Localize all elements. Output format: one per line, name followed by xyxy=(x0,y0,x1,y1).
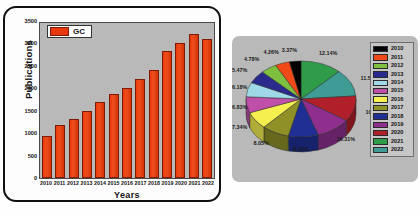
pie-legend-label-2019: 2019 xyxy=(391,122,403,128)
x-tick-2010: 2010 xyxy=(40,180,52,190)
pie-legend-label-2010: 2010 xyxy=(391,46,403,52)
y-tick-3500: 3500 xyxy=(11,19,37,25)
pie-label-2018: 8.79% xyxy=(293,146,308,152)
pie-legend-swatch-2011 xyxy=(373,54,388,60)
pie-legend-swatch-2017 xyxy=(373,105,388,111)
pie-legend-swatch-2020 xyxy=(373,130,388,136)
pie-label-2013: 5.47% xyxy=(232,67,247,73)
bar-series-gc xyxy=(40,23,214,178)
bar-2020 xyxy=(175,43,185,178)
bar-2013 xyxy=(82,111,92,178)
x-tick-2014: 2014 xyxy=(94,180,106,190)
bar-chart-inner: Publications 350030002500200015001000500… xyxy=(5,8,221,202)
bar-2015 xyxy=(109,94,119,178)
bar-2011 xyxy=(55,125,65,178)
bar-2010 xyxy=(42,136,52,178)
pie-label-2015: 6.83% xyxy=(232,104,247,110)
bar-2016 xyxy=(122,88,132,178)
pie-legend-label-2011: 2011 xyxy=(391,55,403,61)
y-tick-1000: 1000 xyxy=(11,131,37,137)
pie-chart-legend: 2010201120122013201420152016201720182019… xyxy=(370,42,414,157)
pie-legend-swatch-2016 xyxy=(373,96,388,102)
bar-chart-legend: GC xyxy=(47,25,92,38)
bar-2014 xyxy=(95,102,105,178)
x-tick-2018: 2018 xyxy=(148,180,160,190)
pie-legend-item-2010: 2010 xyxy=(373,45,411,53)
pie-legend-label-2013: 2013 xyxy=(391,72,403,78)
pie-legend-item-2022: 2022 xyxy=(373,146,411,154)
y-tick-2000: 2000 xyxy=(11,86,37,92)
pie-legend-item-2011: 2011 xyxy=(373,53,411,61)
y-tick-3000: 3000 xyxy=(11,41,37,47)
pie-legend-item-2015: 2015 xyxy=(373,87,411,95)
y-tick-500: 500 xyxy=(11,154,37,160)
bar-y-axis-ticks: 3500300025002000150010005000 xyxy=(9,8,37,202)
pie-label-2011: 4.26% xyxy=(264,49,279,55)
pie-legend-label-2021: 2021 xyxy=(391,139,403,145)
bar-2019 xyxy=(162,51,172,178)
pie-legend-item-2019: 2019 xyxy=(373,121,411,129)
x-tick-2016: 2016 xyxy=(121,180,133,190)
pie-chart-panel: 12.14%11.57%10.91%10.31%8.79%8.05%7.34%6… xyxy=(232,36,418,182)
pie-legend-item-2021: 2021 xyxy=(373,137,411,145)
pie-label-2021: 12.14% xyxy=(319,50,337,56)
x-tick-2020: 2020 xyxy=(175,180,187,190)
figure-root: Publications 350030002500200015001000500… xyxy=(0,0,420,216)
pie-label-2017: 8.05% xyxy=(253,140,268,146)
pie-label-2016: 7.34% xyxy=(232,124,247,130)
pie-label-2014: 6.18% xyxy=(232,84,247,90)
bar-2022 xyxy=(202,39,212,178)
x-tick-2012: 2012 xyxy=(67,180,79,190)
y-tick-2500: 2500 xyxy=(11,64,37,70)
pie-legend-label-2022: 2022 xyxy=(391,147,403,153)
pie-legend-swatch-2012 xyxy=(373,63,388,69)
pie-legend-label-2014: 2014 xyxy=(391,80,403,86)
bar-plot-area xyxy=(39,22,215,179)
bar-x-axis-label: Years xyxy=(39,190,215,200)
pie-legend-swatch-2015 xyxy=(373,88,388,94)
pie-chart-top-face xyxy=(245,60,357,138)
pie-label-2010: 3.37% xyxy=(282,47,297,53)
pie-legend-label-2017: 2017 xyxy=(391,105,403,111)
pie-legend-label-2020: 2020 xyxy=(391,130,403,136)
pie-label-2019: 10.31% xyxy=(337,136,355,142)
x-tick-2021: 2021 xyxy=(189,180,201,190)
y-tick-1500: 1500 xyxy=(11,109,37,115)
pie-legend-swatch-2019 xyxy=(373,122,388,128)
bar-2021 xyxy=(189,34,199,178)
bar-2017 xyxy=(135,79,145,178)
pie-legend-item-2012: 2012 xyxy=(373,62,411,70)
bar-chart-panel: Publications 350030002500200015001000500… xyxy=(3,6,221,202)
legend-swatch-gc xyxy=(50,27,69,36)
x-tick-2015: 2015 xyxy=(108,180,120,190)
pie-legend-item-2014: 2014 xyxy=(373,79,411,87)
bar-2012 xyxy=(69,119,79,178)
y-tick-0: 0 xyxy=(11,176,37,182)
x-tick-2011: 2011 xyxy=(54,180,66,190)
x-tick-2022: 2022 xyxy=(202,180,214,190)
pie-legend-item-2013: 2013 xyxy=(373,70,411,78)
pie-legend-item-2017: 2017 xyxy=(373,104,411,112)
pie-legend-item-2018: 2018 xyxy=(373,112,411,120)
pie-legend-swatch-2010 xyxy=(373,46,388,52)
pie-legend-swatch-2021 xyxy=(373,138,388,144)
bar-2018 xyxy=(149,70,159,178)
pie-legend-label-2015: 2015 xyxy=(391,88,403,94)
x-tick-2017: 2017 xyxy=(135,180,147,190)
pie-legend-item-2016: 2016 xyxy=(373,95,411,103)
pie-legend-swatch-2013 xyxy=(373,71,388,77)
legend-label-gc: GC xyxy=(73,27,85,36)
pie-legend-label-2018: 2018 xyxy=(391,114,403,120)
pie-legend-label-2012: 2012 xyxy=(391,63,403,69)
pie-label-2012: 4.78% xyxy=(244,56,259,62)
pie-legend-swatch-2014 xyxy=(373,80,388,86)
x-tick-2019: 2019 xyxy=(162,180,174,190)
x-tick-2013: 2013 xyxy=(81,180,93,190)
pie-legend-swatch-2018 xyxy=(373,113,388,119)
pie-legend-swatch-2022 xyxy=(373,147,388,153)
pie-legend-item-2020: 2020 xyxy=(373,129,411,137)
bar-x-axis-ticks: 2010201120122013201420152016201720182019… xyxy=(39,180,215,190)
pie-legend-label-2016: 2016 xyxy=(391,97,403,103)
